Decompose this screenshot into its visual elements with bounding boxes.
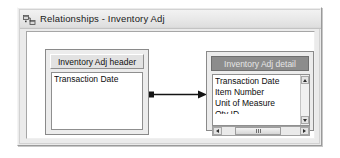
grip-line — [256, 129, 257, 133]
relationships-window[interactable]: Relationships - Inventory Adj Inventory … — [17, 7, 322, 146]
field-item-clipped[interactable]: Qty ID — [215, 109, 309, 114]
scroll-right-button[interactable] — [300, 127, 309, 135]
horizontal-scroll-thumb[interactable] — [235, 127, 281, 135]
table-title-inventory-adj-header[interactable]: Inventory Adj header — [50, 54, 144, 69]
field-list-inventory-adj-header[interactable]: Transaction Date — [51, 72, 143, 130]
table-box-inventory-adj-header[interactable]: Inventory Adj header Transaction Date — [45, 49, 149, 135]
table-title-inventory-adj-detail[interactable]: Inventory Adj detail — [211, 56, 309, 71]
window-titlebar[interactable]: Relationships - Inventory Adj — [20, 10, 321, 27]
triangle-up-icon — [303, 79, 307, 82]
field-item[interactable]: Transaction Date — [215, 76, 309, 87]
table-box-inventory-adj-detail[interactable]: Inventory Adj detail Transaction Date It… — [206, 51, 314, 131]
grip-line — [258, 129, 259, 133]
triangle-right-icon — [303, 129, 306, 133]
field-item[interactable]: Unit of Measure — [215, 98, 309, 109]
field-item[interactable]: Item Number — [215, 87, 309, 98]
scroll-left-button[interactable] — [213, 127, 222, 135]
relationships-canvas[interactable]: Inventory Adj header Transaction Date In… — [26, 31, 315, 139]
field-list-horizontal-scrollbar[interactable] — [212, 126, 310, 136]
field-list-vertical-scrollbar[interactable] — [300, 75, 309, 125]
triangle-down-icon — [303, 119, 307, 122]
titlebar-divider — [20, 27, 321, 29]
field-item[interactable]: Transaction Date — [54, 74, 142, 85]
grip-line — [260, 129, 261, 133]
field-list-inventory-adj-detail[interactable]: Transaction Date Item Number Unit of Mea… — [212, 74, 310, 126]
scroll-up-button[interactable] — [301, 76, 309, 84]
triangle-left-icon — [216, 129, 219, 133]
scroll-down-button[interactable] — [301, 116, 309, 124]
window-title: Relationships - Inventory Adj — [40, 14, 165, 24]
relationships-icon — [23, 13, 36, 25]
relationship-connector[interactable] — [149, 87, 207, 99]
